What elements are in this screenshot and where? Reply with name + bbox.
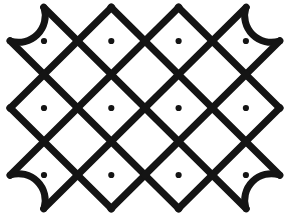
kolam-dot-r2-c3	[243, 172, 249, 178]
kolam-dot-r1-c3	[243, 105, 249, 111]
artwork-canvas: Sikku Kolam Loop Pattern Kolam pattern o…	[0, 0, 289, 215]
kolam-dot-r1-c0	[41, 105, 47, 111]
kolam-dot-r0-c1	[108, 38, 114, 44]
kolam-dot-r2-c2	[176, 172, 182, 178]
kolam-figure: Sikku Kolam Loop Pattern Kolam pattern o…	[0, 0, 289, 215]
kolam-dot-r2-c0	[41, 172, 47, 178]
kolam-dot-r2-c1	[108, 172, 114, 178]
kolam-dot-r1-c2	[176, 105, 182, 111]
kolam-dot-r0-c2	[176, 38, 182, 44]
kolam-dot-r0-c3	[243, 38, 249, 44]
kolam-dot-r0-c0	[41, 38, 47, 44]
kolam-dot-r1-c1	[108, 105, 114, 111]
